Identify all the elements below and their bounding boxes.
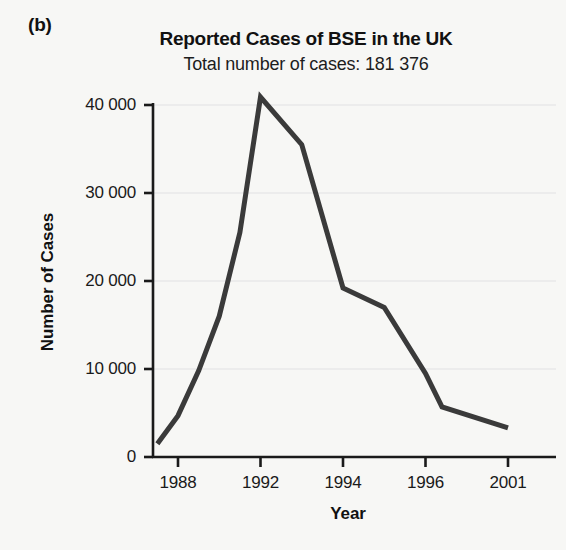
x-tick-label: 1996 [381,473,471,493]
x-tick-label: 1994 [298,473,388,493]
data-series-line [157,97,508,444]
x-tick-label: 1988 [133,473,223,493]
y-tick-label: 0 [26,447,136,467]
x-tick-marks [178,457,508,467]
y-tick-label: 20 000 [26,271,136,291]
y-tick-label: 40 000 [26,95,136,115]
y-tick-label: 10 000 [26,359,136,379]
chart-page: (b) Reported Cases of BSE in the UK Tota… [0,0,566,550]
y-tick-label: 30 000 [26,183,136,203]
x-tick-label: 2001 [463,473,553,493]
x-tick-label: 1992 [216,473,306,493]
y-tick-marks [144,105,153,457]
